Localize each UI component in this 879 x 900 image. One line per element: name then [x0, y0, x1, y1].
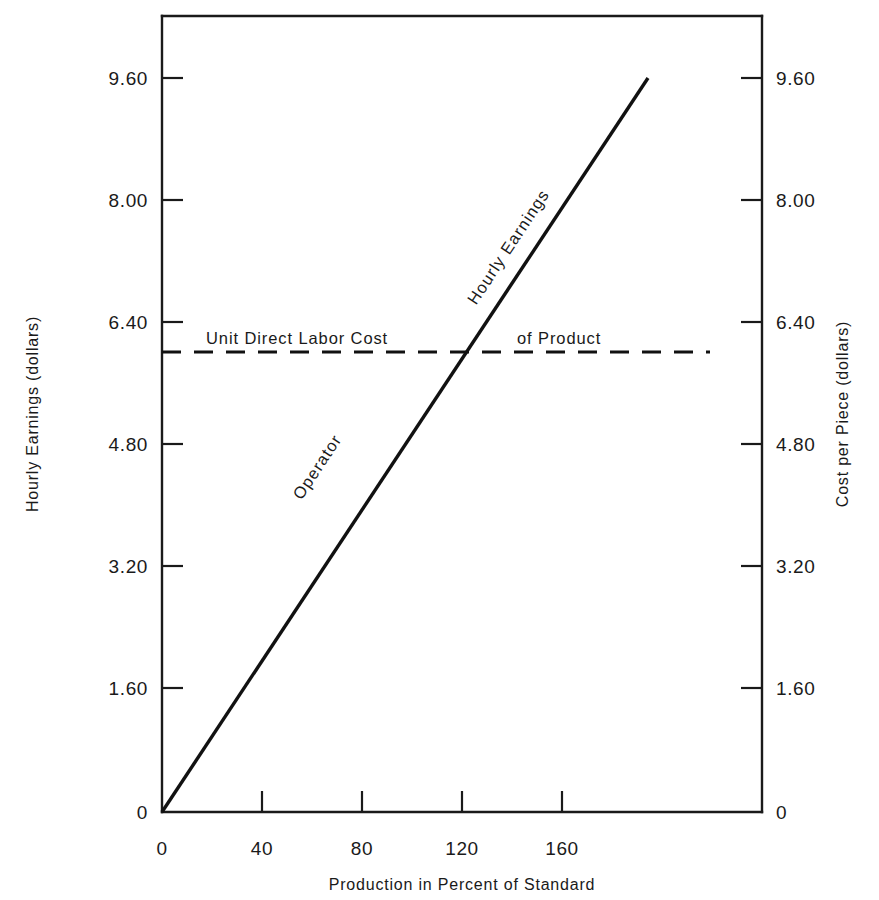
right-tick-label-640: 6.40	[776, 312, 815, 333]
left-tick-label-640: 6.40	[109, 312, 148, 333]
chart-figure: 9.60 8.00 6.40 4.80 3.20 1.60 0 9.60 8.0…	[0, 0, 879, 900]
right-axis-ticks	[741, 78, 762, 688]
chart-canvas: 9.60 8.00 6.40 4.80 3.20 1.60 0 9.60 8.0…	[0, 0, 879, 900]
bottom-axis-ticks	[262, 791, 562, 812]
bottom-axis-tick-labels: 0 40 80 120 160	[156, 838, 578, 859]
bottom-tick-label-120: 120	[445, 838, 479, 859]
annotation-of-product: of Product	[517, 329, 601, 347]
right-axis-tick-labels: 9.60 8.00 6.40 4.80 3.20 1.60 0	[776, 68, 815, 823]
bottom-axis-title: Production in Percent of Standard	[329, 876, 596, 893]
bottom-tick-label-80: 80	[351, 838, 373, 859]
right-tick-label-320: 3.20	[776, 556, 815, 577]
right-tick-label-960: 9.60	[776, 68, 815, 89]
series-label-operator: Operator	[289, 431, 345, 503]
right-tick-label-800: 8.00	[776, 190, 815, 211]
bottom-tick-label-40: 40	[251, 838, 273, 859]
left-tick-label-0: 0	[137, 802, 148, 823]
left-axis-tick-labels: 9.60 8.00 6.40 4.80 3.20 1.60 0	[109, 68, 148, 823]
left-tick-label-320: 3.20	[109, 556, 148, 577]
right-tick-label-0: 0	[776, 802, 787, 823]
right-tick-label-480: 4.80	[776, 434, 815, 455]
left-tick-label-800: 8.00	[109, 190, 148, 211]
plot-frame	[162, 16, 762, 812]
left-tick-label-160: 1.60	[109, 678, 148, 699]
left-axis-title: Hourly Earnings (dollars)	[24, 316, 41, 512]
left-tick-label-960: 9.60	[109, 68, 148, 89]
right-tick-label-160: 1.60	[776, 678, 815, 699]
left-tick-label-480: 4.80	[109, 434, 148, 455]
bottom-tick-label-160: 160	[545, 838, 579, 859]
annotation-unit-direct-labor-cost: Unit Direct Labor Cost	[206, 329, 388, 347]
right-axis-title: Cost per Piece (dollars)	[834, 321, 851, 507]
left-axis-ticks	[162, 78, 183, 688]
bottom-tick-label-0: 0	[156, 838, 167, 859]
operator-hourly-earnings-line	[162, 78, 648, 812]
